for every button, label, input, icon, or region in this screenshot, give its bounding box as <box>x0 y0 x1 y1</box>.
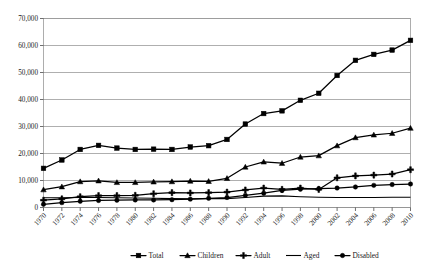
y-axis-tick-label: 40,000 <box>18 96 38 104</box>
data-point-marker <box>225 137 230 142</box>
data-point-marker <box>60 158 65 163</box>
data-point-marker <box>335 186 339 190</box>
data-point-marker <box>372 183 376 187</box>
legend-label: Total <box>149 251 164 260</box>
chart-background <box>0 0 436 272</box>
data-point-marker <box>280 109 285 114</box>
y-axis-tick-label: 60,000 <box>18 42 38 50</box>
data-point-marker <box>353 185 357 189</box>
data-point-marker <box>96 198 100 202</box>
x-axis-ticks-group <box>44 208 411 212</box>
data-point-marker <box>353 58 358 63</box>
data-point-marker <box>188 197 192 201</box>
data-point-marker <box>280 188 284 192</box>
data-point-marker <box>340 253 344 257</box>
data-point-marker <box>96 143 101 148</box>
data-point-marker <box>133 198 137 202</box>
data-point-marker <box>316 91 321 96</box>
data-point-marker <box>41 166 46 171</box>
data-point-marker <box>261 191 265 195</box>
y-axis-tick-label: 10,000 <box>18 177 38 185</box>
data-point-marker <box>41 202 45 206</box>
data-point-marker <box>261 111 266 116</box>
data-point-marker <box>298 98 303 103</box>
chart-canvas: 010,00020,00030,00040,00050,00060,00070,… <box>0 0 436 272</box>
y-axis-tick-label: 70,000 <box>18 15 38 23</box>
data-point-marker <box>151 198 155 202</box>
data-point-marker <box>298 187 302 191</box>
y-axis-tick-label: 0 <box>34 204 38 212</box>
data-point-marker <box>225 195 229 199</box>
line-chart: 010,00020,00030,00040,00050,00060,00070,… <box>0 0 436 272</box>
data-point-marker <box>188 145 193 150</box>
data-point-marker <box>60 200 64 204</box>
data-point-marker <box>408 38 413 43</box>
y-axis-tick-label: 20,000 <box>18 150 38 158</box>
data-point-marker <box>78 147 83 152</box>
data-point-marker <box>136 253 141 258</box>
data-point-marker <box>243 193 247 197</box>
legend-label: Adult <box>254 251 272 260</box>
data-point-marker <box>170 197 174 201</box>
data-point-marker <box>206 196 210 200</box>
data-point-marker <box>133 147 138 152</box>
legend-label: Children <box>198 251 224 260</box>
data-point-marker <box>170 147 175 152</box>
data-point-marker <box>78 199 82 203</box>
data-point-marker <box>408 182 412 186</box>
data-point-marker <box>206 143 211 148</box>
legend-label: Disabled <box>353 251 380 260</box>
legend-label: Aged <box>304 251 320 260</box>
data-point-marker <box>335 73 340 78</box>
y-axis-tick-label: 50,000 <box>18 69 38 77</box>
data-point-marker <box>243 122 248 127</box>
data-point-marker <box>115 198 119 202</box>
data-point-marker <box>151 147 156 152</box>
data-point-marker <box>372 52 377 57</box>
data-point-marker <box>115 146 120 151</box>
data-point-marker <box>317 186 321 190</box>
y-axis-tick-label: 30,000 <box>18 123 38 131</box>
data-point-marker <box>390 48 395 53</box>
data-point-marker <box>390 182 394 186</box>
